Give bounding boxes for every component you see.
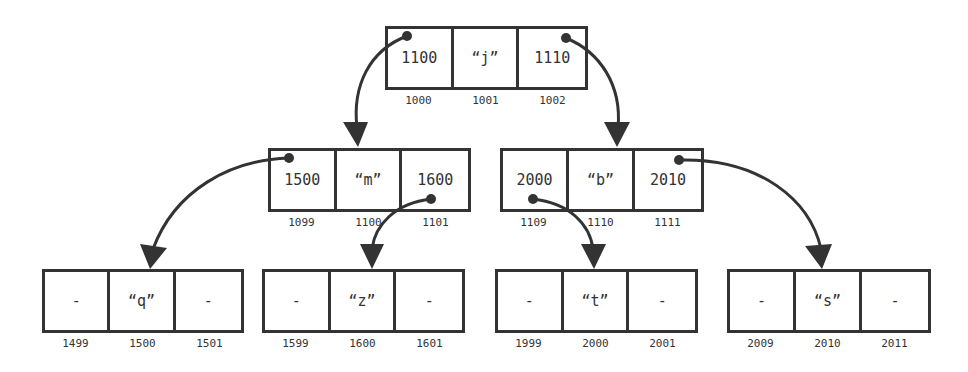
arrowhead-icon (581, 244, 606, 269)
pointer-dot-icon (402, 31, 412, 41)
arrow-midright-left (533, 199, 593, 249)
arrowhead-icon (343, 122, 368, 147)
binary-tree-memory-diagram: 1100 “j” 1110 1000 1001 1002 1500 “m” 16… (0, 0, 968, 372)
pointer-arrows (0, 0, 968, 372)
arrowhead-icon (140, 244, 167, 269)
arrow-midleft-right (372, 199, 431, 249)
arrow-midleft-left (153, 158, 289, 249)
arrow-root-right (566, 38, 618, 128)
pointer-dot-icon (528, 194, 538, 204)
arrowhead-icon (604, 122, 630, 147)
arrow-midright-right (679, 160, 821, 249)
pointer-dot-icon (426, 194, 436, 204)
arrow-root-left (356, 36, 407, 128)
arrowhead-icon (360, 244, 384, 269)
pointer-dot-icon (561, 33, 571, 43)
pointer-dot-icon (674, 155, 684, 165)
arrowhead-icon (805, 244, 832, 269)
pointer-dot-icon (284, 153, 294, 163)
